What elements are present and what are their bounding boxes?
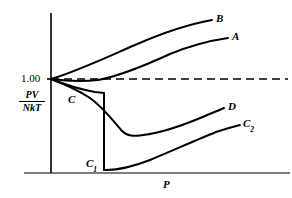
curve-label-d: D: [228, 101, 236, 112]
curve-label-c2-subscript: 2: [250, 125, 254, 134]
y-axis-label-denominator: NkT: [12, 103, 52, 114]
y-tick-label-one: 1.00: [21, 73, 40, 84]
curve-label-c1: C1: [86, 158, 97, 172]
curve-label-c1-subscript: 1: [93, 165, 97, 174]
gas-compressibility-figure: PV NkT 1.00 P B A C D C1 C2: [0, 0, 292, 198]
curve-label-a: A: [232, 31, 239, 42]
curve-label-c: C: [68, 94, 75, 105]
curve-a: [51, 38, 228, 81]
curve-c: [51, 79, 104, 170]
y-axis-label-numerator: PV: [12, 90, 52, 101]
curve-label-c2: C2: [243, 118, 254, 132]
curve-label-b: B: [216, 13, 223, 24]
curve-c1-c2: [104, 125, 240, 170]
x-axis-label: P: [163, 179, 170, 190]
y-axis-label: PV NkT: [12, 90, 52, 113]
